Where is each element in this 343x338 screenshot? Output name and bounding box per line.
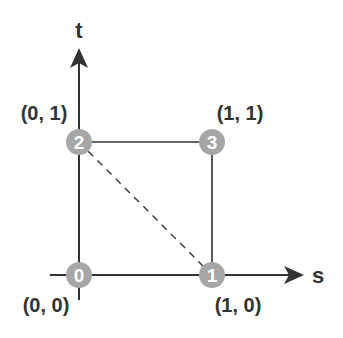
svg-text:1: 1	[207, 265, 218, 286]
node-2: 2	[66, 129, 92, 155]
t-axis-label: t	[75, 18, 83, 43]
node-3: 3	[199, 129, 225, 155]
coord-label-node-3: (1, 1)	[217, 102, 264, 124]
svg-text:2: 2	[74, 132, 85, 153]
s-axis-label: s	[312, 263, 324, 288]
svg-text:3: 3	[207, 132, 218, 153]
coord-label-node-1: (1, 0)	[215, 294, 262, 316]
svg-text:0: 0	[74, 265, 85, 286]
coord-label-node-2: (0, 1)	[21, 102, 68, 124]
node-1: 1	[199, 262, 225, 288]
node-0: 0	[66, 262, 92, 288]
edge-2-1-dashed	[79, 142, 212, 275]
texture-coordinate-diagram: 0 1 2 3 t s (0, 1) (1, 1) (0, 0) (1, 0)	[0, 0, 343, 338]
coord-label-node-0: (0, 0)	[23, 294, 70, 316]
